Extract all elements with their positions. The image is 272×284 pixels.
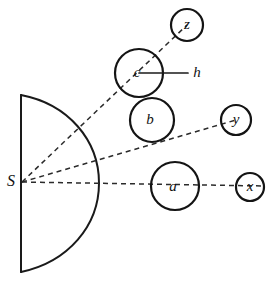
label-circle-a: a <box>169 178 177 194</box>
label-circle-x: x <box>246 178 254 194</box>
label-source-s: S <box>7 172 15 189</box>
label-circle-z: z <box>183 16 190 32</box>
label-circle-y: y <box>231 111 240 127</box>
ray-s-to-y <box>22 120 236 182</box>
ray-diagram: S h a b c x y z <box>0 0 272 284</box>
figure-root: S h a b c x y z <box>0 0 272 284</box>
ray-s-to-x <box>22 182 264 186</box>
label-circle-c: c <box>134 64 141 80</box>
label-circle-b: b <box>146 111 154 127</box>
circle-group <box>115 9 264 210</box>
label-height-h: h <box>193 64 201 80</box>
